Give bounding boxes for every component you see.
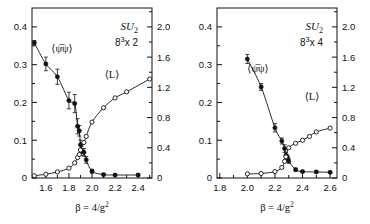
panel-title-group: SU2 (306, 20, 323, 35)
marker-open-circle (32, 174, 36, 178)
curve-polyakov-loop (34, 79, 149, 176)
y-left-tick-label: 0.2 (14, 97, 27, 108)
x-tick-label: 2.0 (241, 182, 254, 193)
y-right-tick-label: 0.4 (157, 142, 170, 153)
marker-filled-circle (294, 168, 298, 172)
y-right-tick-label: 0 (342, 172, 347, 183)
marker-open-circle (148, 77, 152, 81)
figure-root: 1.61.82.02.22.400.10.20.30.400.40.81.21.… (0, 0, 370, 224)
annotation-chiral-condensate: ⟨ψ̅ψ⟩ (247, 63, 268, 74)
marker-filled-circle (77, 129, 81, 133)
marker-open-circle (307, 134, 311, 138)
marker-filled-circle (84, 158, 88, 162)
marker-open-circle (101, 106, 105, 110)
y-right-tick-label: 2.0 (157, 21, 170, 32)
marker-filled-circle (314, 170, 318, 174)
marker-open-circle (90, 120, 94, 124)
annotation-polyakov-loop: ⟨L⟩ (105, 69, 120, 80)
plot-canvas-right: 1.82.02.22.42.600.10.20.30.400.40.81.21.… (185, 0, 370, 224)
marker-open-circle (273, 169, 277, 173)
curve-chiral-condensate (34, 43, 138, 175)
marker-open-circle (282, 159, 286, 163)
marker-open-circle (328, 126, 332, 130)
x-axis-label-exponent: 2 (290, 200, 294, 209)
y-right-tick-label: 1.2 (342, 82, 355, 93)
marker-open-circle (84, 134, 88, 138)
marker-filled-circle (55, 75, 59, 79)
marker-open-circle (284, 155, 288, 159)
x-axis-label: β = 4/g2 (75, 200, 109, 213)
y-right-tick-label: 1.6 (157, 52, 170, 63)
annotation-chiral-condensate: ⟨ψ̅ψ⟩ (51, 43, 72, 54)
marker-open-circle (78, 148, 82, 152)
chart-panel-right: 1.82.02.22.42.600.10.20.30.400.40.81.21.… (185, 0, 370, 224)
y-left-tick-label: 0.1 (199, 135, 212, 146)
panel-title-group: SU2 (121, 20, 138, 35)
marker-open-circle (77, 152, 81, 156)
panel-title-subscript: 2 (319, 26, 323, 35)
y-left-tick-label: 0.2 (199, 97, 212, 108)
y-left-tick-label: 0.4 (14, 21, 27, 32)
marker-filled-circle (44, 62, 48, 66)
panel-title-subscript: 2 (134, 26, 138, 35)
x-tick-label: 2.0 (85, 182, 98, 193)
marker-open-circle (44, 172, 48, 176)
marker-filled-circle (259, 85, 263, 89)
panel-lattice-rest: x 4 (310, 37, 324, 48)
marker-open-circle (287, 146, 291, 150)
y-right-tick-label: 2.0 (342, 21, 355, 32)
x-tick-label: 1.8 (62, 182, 75, 193)
marker-filled-circle (113, 173, 117, 177)
y-left-tick-label: 0.1 (14, 135, 27, 146)
chart-panel-left: 1.61.82.02.22.400.10.20.30.400.40.81.21.… (0, 0, 185, 224)
marker-open-circle (82, 140, 86, 144)
y-right-tick-label: 0 (157, 172, 162, 183)
y-left-tick-label: 0.3 (14, 59, 27, 70)
marker-open-circle (280, 165, 284, 169)
y-left-tick-label: 0.3 (199, 59, 212, 70)
marker-filled-circle (32, 41, 36, 45)
y-left-tick-label: 0 (22, 172, 27, 183)
curve-polyakov-loop (247, 128, 330, 174)
marker-filled-circle (90, 169, 94, 173)
marker-open-circle (113, 96, 117, 100)
y-left-tick-label: 0.4 (199, 21, 212, 32)
y-right-tick-label: 1.6 (342, 52, 355, 63)
marker-open-circle (294, 141, 298, 145)
marker-open-circle (300, 138, 304, 142)
marker-open-circle (125, 90, 129, 94)
x-axis-label-exponent: 2 (105, 200, 109, 209)
marker-open-circle (67, 166, 71, 170)
y-right-tick-label: 0.4 (342, 142, 355, 153)
x-tick-label: 2.2 (108, 182, 121, 193)
marker-filled-circle (282, 146, 286, 150)
x-tick-label: 2.6 (323, 182, 336, 193)
marker-filled-circle (67, 98, 71, 102)
marker-open-circle (73, 161, 77, 165)
marker-filled-circle (136, 173, 140, 177)
marker-open-circle (55, 170, 59, 174)
marker-filled-circle (101, 173, 105, 177)
plot-canvas-left: 1.61.82.02.22.400.10.20.30.400.40.81.21.… (0, 0, 185, 224)
x-tick-label: 2.4 (132, 182, 145, 193)
panel-lattice-label: 83x 2 (115, 35, 139, 48)
y-right-tick-label: 0.8 (157, 112, 170, 123)
panel-lattice-label: 83x 4 (300, 35, 324, 48)
marker-open-circle (245, 172, 249, 176)
marker-filled-circle (300, 169, 304, 173)
marker-filled-circle (73, 101, 77, 105)
x-tick-label: 2.2 (268, 182, 281, 193)
x-tick-label: 2.4 (296, 182, 309, 193)
annotation-polyakov-loop: ⟨L⟩ (305, 91, 320, 102)
marker-open-circle (259, 171, 263, 175)
marker-filled-circle (287, 159, 291, 163)
x-tick-label: 1.6 (39, 182, 52, 193)
y-right-tick-label: 1.2 (157, 82, 170, 93)
x-tick-label: 1.8 (213, 182, 226, 193)
x-axis-label: β = 4/g2 (260, 200, 294, 213)
marker-filled-circle (273, 126, 277, 130)
panel-lattice-rest: x 2 (125, 37, 139, 48)
marker-filled-circle (328, 170, 332, 174)
marker-filled-circle (280, 139, 284, 143)
marker-filled-circle (245, 57, 249, 61)
